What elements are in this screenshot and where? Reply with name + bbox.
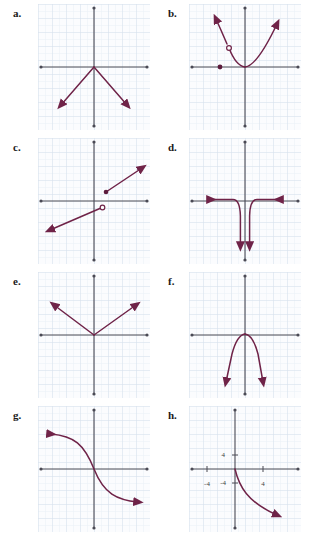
worksheet-page: a. <box>0 0 310 538</box>
plot-svg-g <box>38 406 150 532</box>
panel-c: c. <box>0 134 155 268</box>
y-tick-label-neg4: -4 <box>220 479 226 487</box>
graph-a <box>38 4 150 130</box>
closed-point-c <box>104 190 109 195</box>
graph-g <box>38 406 150 532</box>
graph-h: 4 -4 -4 4 <box>189 406 301 532</box>
plot-svg-a <box>38 4 150 130</box>
graph-c <box>38 138 150 264</box>
graph-d <box>189 138 301 264</box>
graph-b <box>189 4 301 130</box>
plot-svg-b <box>189 4 301 130</box>
plot-svg-f <box>189 272 301 398</box>
panel-label-g: g. <box>13 410 21 421</box>
panel-label-e: e. <box>13 276 21 287</box>
closed-point-b <box>218 65 223 70</box>
panel-g: g. <box>0 402 155 536</box>
x-tick-label-pos4: 4 <box>261 480 265 488</box>
panel-label-h: h. <box>168 410 177 421</box>
y-tick-label-pos4: 4 <box>222 451 226 459</box>
panel-label-a: a. <box>13 8 21 19</box>
graph-e <box>38 272 150 398</box>
open-circle-b <box>227 46 232 51</box>
panel-h: h. <box>155 402 310 536</box>
panel-d: d. <box>155 134 310 268</box>
graph-f <box>189 272 301 398</box>
panel-label-f: f. <box>168 276 174 287</box>
x-tick-label-neg4: -4 <box>204 480 210 488</box>
panel-label-c: c. <box>13 142 21 153</box>
panel-b: b. <box>155 0 310 134</box>
panel-a: a. <box>0 0 155 134</box>
panel-label-b: b. <box>168 8 177 19</box>
panel-e: e. <box>0 268 155 402</box>
plot-svg-h: 4 -4 -4 4 <box>189 406 301 532</box>
panel-label-d: d. <box>168 142 177 153</box>
plot-svg-d <box>189 138 301 264</box>
plot-svg-c <box>38 138 150 264</box>
open-circle-c <box>100 205 105 210</box>
panel-f: f. <box>155 268 310 402</box>
plot-svg-e <box>38 272 150 398</box>
